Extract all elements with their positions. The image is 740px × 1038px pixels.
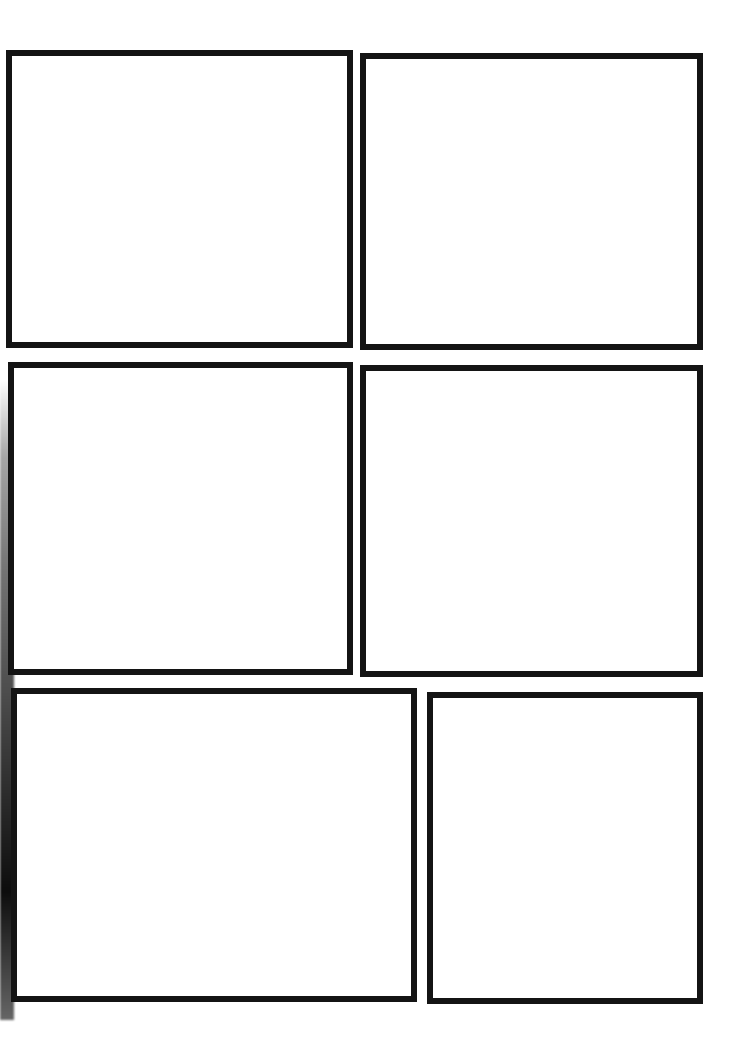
comic-panel-3 xyxy=(8,362,353,675)
comic-panel-2 xyxy=(360,53,703,350)
comic-panel-4 xyxy=(360,365,703,677)
comic-panel-5 xyxy=(11,688,417,1002)
comic-panel-1 xyxy=(6,50,353,348)
comic-panel-6 xyxy=(427,692,703,1004)
